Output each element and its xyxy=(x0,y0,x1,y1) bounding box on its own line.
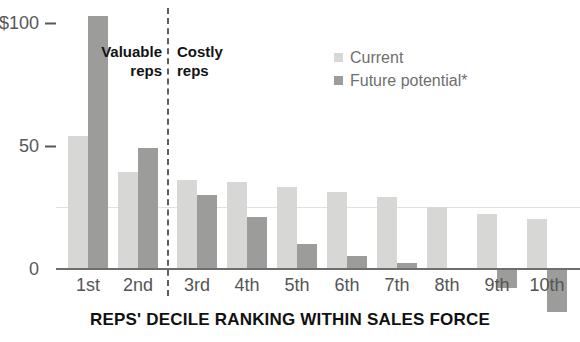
annotation-valuable-reps: Valuable reps xyxy=(62,42,162,80)
legend-label-current: Current xyxy=(350,49,403,67)
annotation-costly-reps: Costly reps xyxy=(177,42,277,80)
y-tick-0: 0 xyxy=(29,259,56,280)
y-tick-100: $100 xyxy=(0,13,56,34)
bar-future-6th xyxy=(347,256,367,268)
legend: Current Future potential* xyxy=(334,46,467,92)
bar-current-10th xyxy=(527,219,547,268)
y-tick-100-label: $100 xyxy=(0,13,39,33)
bar-current-1st xyxy=(68,136,88,268)
bar-future-3rd xyxy=(197,195,217,269)
bar-future-2nd xyxy=(138,148,158,268)
bar-current-2nd xyxy=(118,172,138,268)
zero-axis-line xyxy=(56,268,580,270)
bar-current-9th xyxy=(477,214,497,268)
x-axis-title: REPS' DECILE RANKING WITHIN SALES FORCE xyxy=(0,310,580,330)
legend-item-future: Future potential* xyxy=(334,69,467,92)
legend-item-current: Current xyxy=(334,46,467,69)
bar-current-3rd xyxy=(177,180,197,268)
bar-current-5th xyxy=(277,187,297,268)
y-tick-0-label: 0 xyxy=(29,259,39,279)
bar-current-4th xyxy=(227,182,247,268)
future-swatch-icon xyxy=(334,76,343,85)
y-tick-100-mark xyxy=(45,23,56,25)
plot-area: $100 50 0 xyxy=(56,0,580,342)
y-tick-50-label: 50 xyxy=(19,136,39,156)
bar-current-8th xyxy=(427,207,447,268)
current-swatch-icon xyxy=(334,53,343,62)
y-tick-0-mark xyxy=(45,269,56,271)
x-label-2nd: 2nd xyxy=(108,275,168,296)
y-tick-50: 50 xyxy=(19,136,56,157)
bar-chart: Why Top Reps Deserve a Bigger Slice (in … xyxy=(0,0,580,342)
bar-current-6th xyxy=(327,192,347,268)
bar-current-7th xyxy=(377,197,397,268)
legend-label-future: Future potential* xyxy=(350,72,467,90)
segment-divider xyxy=(167,8,169,296)
y-tick-50-mark xyxy=(45,146,56,148)
bar-future-5th xyxy=(297,244,317,269)
bar-future-4th xyxy=(247,217,267,268)
x-label-10th: 10th xyxy=(517,275,577,296)
